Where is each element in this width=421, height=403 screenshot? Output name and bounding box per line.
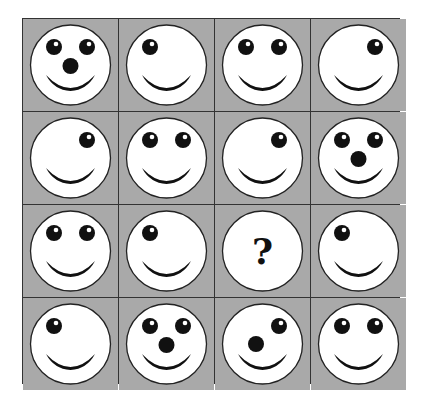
left-eye	[142, 132, 158, 148]
left-eye	[334, 318, 350, 334]
left-eye-highlight	[150, 321, 155, 326]
puzzle-cell-r0-c0	[23, 19, 118, 111]
puzzle-cell-r2-c3	[311, 205, 406, 297]
right-eye-highlight	[279, 135, 284, 140]
left-eye-highlight	[54, 42, 59, 47]
left-eye	[142, 318, 158, 334]
nose	[248, 336, 264, 352]
right-eye-highlight	[87, 135, 92, 140]
right-eye	[367, 132, 383, 148]
right-eye	[79, 132, 95, 148]
puzzle-cell-r1-c1	[119, 112, 214, 204]
nose	[159, 337, 175, 353]
left-eye	[142, 225, 158, 241]
right-eye-highlight	[87, 228, 92, 233]
puzzle-cell-r1-c2	[215, 112, 310, 204]
right-eye-highlight	[183, 135, 188, 140]
face-circle	[31, 211, 111, 291]
puzzle-cell-r3-c2	[215, 298, 310, 390]
left-eye-highlight	[150, 42, 155, 47]
right-eye	[271, 132, 287, 148]
right-eye	[175, 132, 191, 148]
left-eye	[142, 39, 158, 55]
left-eye	[46, 225, 62, 241]
puzzle-cell-r2-c0	[23, 205, 118, 297]
face-circle	[319, 211, 399, 291]
question-mark: ?	[252, 230, 273, 272]
puzzle-grid: ?	[22, 18, 400, 384]
face-circle	[127, 118, 207, 198]
face-circle	[31, 304, 111, 384]
nose	[351, 151, 367, 167]
right-eye	[367, 318, 383, 334]
puzzle-cell-r1-c3	[311, 112, 406, 204]
right-eye-highlight	[279, 42, 284, 47]
puzzle-cell-r2-c1	[119, 205, 214, 297]
left-eye-highlight	[246, 42, 251, 47]
left-eye-highlight	[150, 135, 155, 140]
puzzle-cell-r3-c1	[119, 298, 214, 390]
right-eye-highlight	[279, 321, 284, 326]
right-eye-highlight	[375, 321, 380, 326]
left-eye-highlight	[54, 228, 59, 233]
left-eye	[46, 39, 62, 55]
right-eye	[367, 39, 383, 55]
right-eye	[271, 39, 287, 55]
puzzle-cell-r2-c2[interactable]: ?	[215, 205, 310, 297]
puzzle-cell-r3-c3	[311, 298, 406, 390]
left-eye-highlight	[342, 228, 347, 233]
left-eye-highlight	[342, 135, 347, 140]
face-circle	[127, 25, 207, 105]
face-circle	[223, 25, 303, 105]
face-circle	[223, 118, 303, 198]
right-eye	[271, 318, 287, 334]
face-circle	[319, 25, 399, 105]
right-eye-highlight	[183, 321, 188, 326]
left-eye	[238, 39, 254, 55]
left-eye	[46, 318, 62, 334]
right-eye	[79, 39, 95, 55]
face-circle	[31, 118, 111, 198]
face-circle	[127, 211, 207, 291]
right-eye-highlight	[375, 135, 380, 140]
left-eye-highlight	[150, 228, 155, 233]
puzzle-cell-r1-c0	[23, 112, 118, 204]
right-eye-highlight	[375, 42, 380, 47]
right-eye-highlight	[87, 42, 92, 47]
nose	[63, 58, 79, 74]
puzzle-cell-r0-c1	[119, 19, 214, 111]
right-eye	[79, 225, 95, 241]
right-eye	[175, 318, 191, 334]
puzzle-cell-r3-c0	[23, 298, 118, 390]
left-eye	[334, 132, 350, 148]
left-eye	[334, 225, 350, 241]
left-eye-highlight	[342, 321, 347, 326]
puzzle-cell-r0-c2	[215, 19, 310, 111]
face-circle	[319, 304, 399, 384]
puzzle-cell-r0-c3	[311, 19, 406, 111]
left-eye-highlight	[54, 321, 59, 326]
